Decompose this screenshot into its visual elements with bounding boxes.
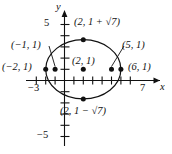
- label-vertex-left: (−2, 1): [2, 62, 32, 73]
- x-tick-label-7: 7: [140, 83, 145, 94]
- label-vertex-right: (6, 1): [128, 62, 151, 73]
- label-focus-left: (−1, 1): [11, 40, 41, 51]
- plot-points: [43, 37, 123, 101]
- point-covertex-bottom: [81, 96, 86, 101]
- point-focus-left: [53, 67, 58, 72]
- x-axis-label: x: [160, 82, 165, 93]
- label-center: (2, 1): [72, 56, 95, 67]
- point-vertex-left: [43, 67, 48, 72]
- y-tick-label-5: 5: [44, 18, 49, 29]
- y-tick-label-neg5: −5: [37, 130, 48, 141]
- point-focus-right: [109, 67, 114, 72]
- x-tick-label-neg3: −3: [28, 83, 39, 94]
- point-vertex-right: [118, 67, 123, 72]
- point-covertex-top: [81, 37, 86, 42]
- y-axis-label: y: [56, 2, 61, 13]
- label-covertex-top: (2, 1 + √7): [74, 17, 120, 28]
- label-focus-right: (5, 1): [122, 40, 145, 51]
- ellipse-figure: y x 5 −5 −3 7 (2, 1 + √7) (2, 1 − √7) (2…: [0, 0, 172, 154]
- point-center: [81, 67, 86, 72]
- label-covertex-bottom: (2, 1 − √7): [60, 106, 106, 117]
